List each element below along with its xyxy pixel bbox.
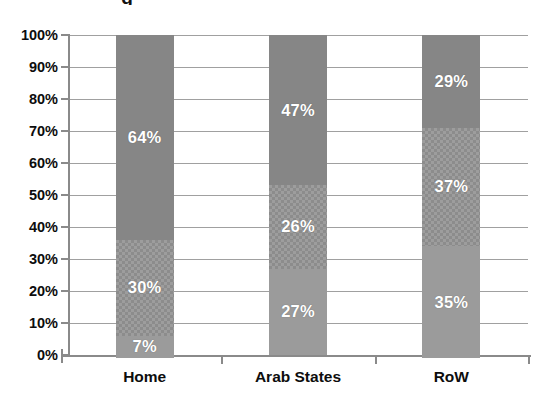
bar-segment-label: 29% <box>435 73 469 90</box>
x-axis-tick <box>61 349 63 363</box>
y-axis-tick-label: 10% <box>2 316 58 330</box>
chart-title-remnant: g <box>113 0 141 5</box>
bar-segment-label: 26% <box>281 218 315 235</box>
y-axis-tick-label: 40% <box>2 220 58 234</box>
x-axis-tick <box>528 355 530 364</box>
y-axis-tick-labels: 100%90%80%70%60%50%40%30%20%10%0% <box>0 0 58 420</box>
bar-segment[interactable]: 26% <box>269 185 327 268</box>
y-axis-tick-label: 30% <box>2 252 58 266</box>
bar-segment[interactable]: 30% <box>116 240 174 336</box>
y-axis-tick-label: 20% <box>2 284 58 298</box>
x-axis-category-label: RoW <box>375 368 528 386</box>
y-axis-tick-label: 90% <box>2 60 58 74</box>
bar-segment-label: 7% <box>133 338 157 355</box>
bar-segment[interactable]: 64% <box>116 35 174 240</box>
stacked-bar-chart: g 100%90%80%70%60%50%40%30%20%10%0% 64%3… <box>0 0 541 420</box>
bar-segment[interactable]: 29% <box>422 35 480 128</box>
bar-segment-label: 37% <box>435 178 469 195</box>
bar-segment-label: 30% <box>128 279 162 296</box>
y-axis-tick-label: 70% <box>2 124 58 138</box>
y-axis-tick-label: 60% <box>2 156 58 170</box>
y-axis-tick-label: 100% <box>2 28 58 42</box>
bar-row[interactable]: 29%37%35% <box>422 35 480 355</box>
y-axis-tick-label: 80% <box>2 92 58 106</box>
x-axis-tick <box>375 355 377 364</box>
x-axis-category-label: Arab States <box>221 368 374 386</box>
bar-segment[interactable]: 35% <box>422 246 480 358</box>
bar-arab-states[interactable]: 47%26%27% <box>269 35 327 355</box>
bar-home[interactable]: 64%30%7% <box>116 35 174 355</box>
bar-segment-label: 47% <box>281 102 315 119</box>
bar-segment-label: 27% <box>281 303 315 320</box>
bar-segment[interactable]: 27% <box>269 269 327 355</box>
bar-segment-label: 35% <box>435 294 469 311</box>
plot-area: 64%30%7%47%26%27%29%37%35% <box>68 35 528 355</box>
bar-segment[interactable]: 7% <box>116 336 174 358</box>
y-axis-tick-label: 50% <box>2 188 58 202</box>
y-axis-tick-label: 0% <box>2 348 58 362</box>
x-axis-tick <box>221 355 223 364</box>
bar-segment-label: 64% <box>128 129 162 146</box>
x-axis-category-label: Home <box>68 368 221 386</box>
bar-segment[interactable]: 37% <box>422 128 480 246</box>
bar-segment[interactable]: 47% <box>269 35 327 185</box>
